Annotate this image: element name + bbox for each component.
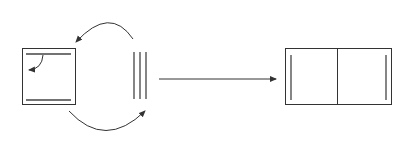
right-box xyxy=(286,49,392,105)
diagram-canvas xyxy=(0,0,409,144)
left-box-inner-curved-arrow-icon xyxy=(29,55,43,70)
left-box xyxy=(23,49,76,105)
top-curved-arrow-icon xyxy=(76,23,133,42)
bottom-curved-arrow-icon xyxy=(69,111,145,131)
three-vertical-lines xyxy=(134,52,146,99)
